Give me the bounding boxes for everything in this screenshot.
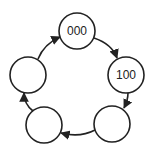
- edge-bottom-left-to-left: [24, 93, 33, 111]
- state-label-top: 000: [67, 24, 87, 38]
- edge-left-to-top: [38, 37, 60, 59]
- state-node-bottom-right: [94, 106, 130, 142]
- edge-top-to-right: [94, 38, 117, 58]
- state-node-right: 100: [108, 57, 144, 93]
- state-node-left: [10, 57, 46, 93]
- state-diagram: 000 100: [0, 0, 151, 153]
- edge-right-to-bottom-right: [124, 93, 128, 108]
- state-node-top: 000: [59, 13, 95, 49]
- state-node-bottom-left: [26, 107, 62, 143]
- state-label-right: 100: [116, 68, 136, 82]
- edge-bottom-right-to-bottom-left: [61, 130, 95, 135]
